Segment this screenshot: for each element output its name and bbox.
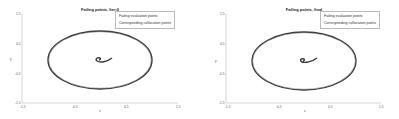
x-tick: 0.5 — [124, 105, 128, 109]
x-tick: -0.5 — [72, 105, 78, 109]
y-tick: -0.5 — [15, 72, 21, 76]
plot-left: Failing points, Iter:0 Failing evaluatio… — [0, 0, 200, 119]
x-axis-label: x — [99, 109, 101, 113]
y-tick: 1.5 — [220, 12, 224, 16]
y-axis-label: y — [10, 57, 12, 61]
x-tick: 1.5 — [379, 105, 383, 109]
y-axis-label: y — [215, 59, 217, 63]
y-tick: 0.5 — [16, 42, 20, 46]
plot-right: Failing points, final Failing evaluation… — [200, 0, 399, 119]
legend-item-collocation: Corresponding collocation points — [324, 20, 376, 27]
legend-item-collocation: Corresponding collocation points — [119, 20, 171, 27]
legend-item-failing: Failing evaluation points — [324, 13, 376, 20]
y-tick: -1.5 — [219, 101, 225, 105]
plot-title: Failing points, Iter:0 — [81, 7, 119, 12]
collocation-spiral — [301, 58, 317, 62]
plot-title: Failing points, final — [286, 7, 322, 12]
legend-item-failing: Failing evaluation points — [119, 13, 171, 20]
legend: Failing evaluation points Corresponding … — [115, 11, 175, 29]
y-tick: 0.5 — [220, 42, 224, 46]
y-tick: -0.5 — [219, 72, 225, 76]
x-tick: -1.5 — [20, 105, 26, 109]
x-tick: -1.5 — [225, 105, 231, 109]
x-tick: -0.5 — [276, 105, 282, 109]
legend: Failing evaluation points Corresponding … — [320, 11, 380, 29]
y-tick: 1.5 — [16, 12, 20, 16]
collocation-spiral — [96, 58, 112, 62]
x-tick: 0.5 — [328, 105, 332, 109]
x-axis-label: x — [304, 109, 306, 113]
x-tick: 1.5 — [176, 105, 180, 109]
